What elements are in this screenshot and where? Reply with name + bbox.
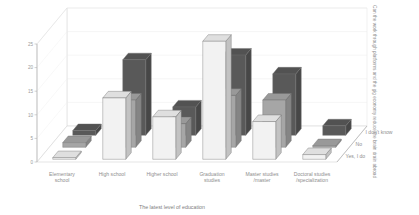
bar-side-face <box>286 94 292 148</box>
bar-3d[interactable] <box>313 139 342 147</box>
x-axis-title: The latest level of education <box>139 204 205 210</box>
x-axis-category-label: Doctoral studies <box>294 171 331 177</box>
z-axis-category-label: No <box>356 141 363 147</box>
x-axis-category-label: school <box>55 177 70 183</box>
bar-front-face <box>153 117 176 159</box>
x-axis-category-label: studies <box>204 177 221 183</box>
bar-side-face <box>176 110 182 159</box>
bar-3d[interactable] <box>253 115 282 159</box>
chart-container: 0510152025ElementaryschoolHigh schoolHig… <box>0 0 419 215</box>
bar-side-face <box>136 94 142 148</box>
bar-3d[interactable] <box>63 136 92 147</box>
bar-front-face <box>253 122 276 160</box>
bar-3d[interactable] <box>153 110 182 159</box>
y-axis-tick-label: 0 <box>30 160 33 165</box>
x-axis-category-label: Master studies <box>245 171 279 177</box>
bar-side-face <box>276 115 282 159</box>
bar-front-face <box>73 131 96 136</box>
bar-3d[interactable] <box>53 151 82 159</box>
bar-side-face <box>126 91 132 159</box>
bar-front-face <box>303 155 326 160</box>
bar-front-face <box>203 41 226 159</box>
z-axis-title: Can the work through platforms and the g… <box>368 5 380 165</box>
bar-front-face <box>53 158 76 160</box>
bar-side-face <box>246 48 252 135</box>
bar-front-face <box>323 126 346 135</box>
x-axis-category-label: Higher school <box>146 171 177 177</box>
y-axis-tick-label: 15 <box>28 89 34 94</box>
x-axis-category-label: Graduation <box>199 171 224 177</box>
x-axis-category-label: /master <box>254 177 271 183</box>
bar-side-face <box>236 89 242 148</box>
y-axis-tick-label: 20 <box>28 65 34 70</box>
bar-side-face <box>296 67 302 135</box>
x-axis-category-label: Elementary <box>49 171 75 177</box>
bar-3d[interactable] <box>303 148 332 159</box>
y-axis-tick-label: 5 <box>30 136 33 141</box>
x-axis-category-label: /specialization <box>296 177 328 183</box>
bar-front-face <box>313 146 336 148</box>
bar-chart-3d: 0510152025ElementaryschoolHigh schoolHig… <box>0 0 419 215</box>
bar-3d[interactable] <box>73 124 102 135</box>
bar-3d[interactable] <box>103 91 132 159</box>
bar-front-face <box>63 143 86 148</box>
y-axis-tick-label: 10 <box>28 113 34 118</box>
bar-side-face <box>226 35 232 160</box>
z-axis-title-wrapper: Can the work through platforms and the g… <box>368 5 380 165</box>
bar-3d[interactable] <box>323 119 352 135</box>
x-axis-category-label: High school <box>99 171 126 177</box>
bar-3d[interactable] <box>203 35 232 160</box>
bar-side-face <box>146 53 152 135</box>
bar-front-face <box>103 98 126 159</box>
y-axis-tick-label: 25 <box>28 42 34 47</box>
z-axis-category-label: Yes, I do <box>346 153 366 159</box>
